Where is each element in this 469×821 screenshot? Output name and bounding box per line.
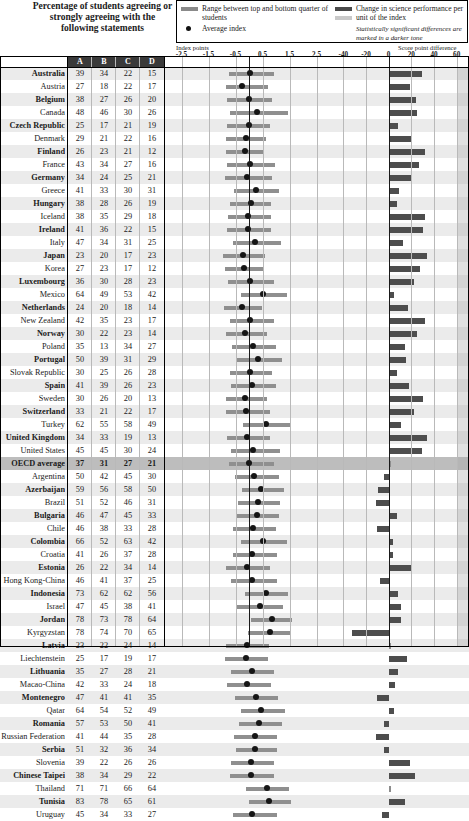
- index-range-cell: [168, 808, 330, 821]
- cell-b: 33: [92, 184, 116, 197]
- table-row[interactable]: Montenegro47414135: [0, 691, 469, 704]
- cell-d: 24: [140, 444, 164, 457]
- table-row[interactable]: Mexico64495342: [0, 288, 469, 301]
- table-row[interactable]: Serbia51323634: [0, 743, 469, 756]
- table-row[interactable]: Chile46383328: [0, 522, 469, 535]
- cell-a: 78: [68, 613, 92, 626]
- table-row[interactable]: Russian Federation41443528: [0, 730, 469, 743]
- table-row[interactable]: Jordan78737864: [0, 613, 469, 626]
- table-row[interactable]: Ireland41362215: [0, 223, 469, 236]
- table-row[interactable]: Chinese Taipei38342922: [0, 769, 469, 782]
- table-row[interactable]: Greece41333031: [0, 184, 469, 197]
- table-row[interactable]: Australia39342215: [0, 67, 469, 80]
- value-cells: 62555849: [68, 418, 164, 431]
- table-row[interactable]: Sweden30262013: [0, 392, 469, 405]
- table-row[interactable]: Czech Republic25172119: [0, 119, 469, 132]
- index-range-cell: [168, 288, 330, 301]
- index-range-cell: [168, 340, 330, 353]
- table-row[interactable]: Norway30222314: [0, 327, 469, 340]
- table-row[interactable]: Latvia23222414: [0, 639, 469, 652]
- table-row[interactable]: Brazil51524631: [0, 496, 469, 509]
- table-row[interactable]: Uruguay45343327: [0, 808, 469, 821]
- table-row[interactable]: Finland26232112: [0, 145, 469, 158]
- table-row[interactable]: Italy47343125: [0, 236, 469, 249]
- score-difference-bar: [389, 435, 428, 441]
- table-row[interactable]: Argentina50424530: [0, 470, 469, 483]
- cell-b: 34: [92, 67, 116, 80]
- table-row[interactable]: France43342716: [0, 158, 469, 171]
- table-row[interactable]: United States45453024: [0, 444, 469, 457]
- table-row[interactable]: Germany34242521: [0, 171, 469, 184]
- table-row[interactable]: Spain41392623: [0, 379, 469, 392]
- table-row[interactable]: Kyrgyzstan78747065: [0, 626, 469, 639]
- cell-c: 18: [116, 301, 140, 314]
- table-row[interactable]: Azerbaijan59565850: [0, 483, 469, 496]
- country-label: Hungary: [0, 197, 65, 210]
- table-row[interactable]: Portugal50393129: [0, 353, 469, 366]
- value-cells: 41362215: [68, 223, 164, 236]
- table-row[interactable]: Bulgaria46474533: [0, 509, 469, 522]
- index-range-cell: [168, 197, 330, 210]
- table-row[interactable]: Estonia26223414: [0, 561, 469, 574]
- table-row[interactable]: Lithuania35272821: [0, 665, 469, 678]
- table-row[interactable]: Slovenia39222626: [0, 756, 469, 769]
- index-range-cell: [168, 600, 330, 613]
- value-cells: 27182217: [68, 80, 164, 93]
- score-difference-cell: [332, 288, 468, 301]
- cell-b: 41: [92, 574, 116, 587]
- table-row[interactable]: Thailand71716664: [0, 782, 469, 795]
- score-difference-cell: [332, 613, 468, 626]
- cell-d: 13: [140, 431, 164, 444]
- table-row[interactable]: Korea27231712: [0, 262, 469, 275]
- value-cells: 41263728: [68, 548, 164, 561]
- table-row[interactable]: Macao-China42332418: [0, 678, 469, 691]
- table-row[interactable]: Iceland38352918: [0, 210, 469, 223]
- cell-c: 21: [116, 119, 140, 132]
- table-row[interactable]: Turkey62555849: [0, 418, 469, 431]
- table-row[interactable]: New Zealand42352317: [0, 314, 469, 327]
- country-label: Spain: [0, 379, 65, 392]
- table-row[interactable]: Switzerland33212217: [0, 405, 469, 418]
- index-range-cell: [168, 366, 330, 379]
- table-row[interactable]: Luxembourg36302823: [0, 275, 469, 288]
- table-row[interactable]: Hong Kong-China46413725: [0, 574, 469, 587]
- table-row[interactable]: Colombia66526342: [0, 535, 469, 548]
- cell-c: 27: [116, 158, 140, 171]
- average-index-dot: [248, 200, 254, 206]
- cell-b: 34: [92, 769, 116, 782]
- country-label: Slovak Republic: [0, 366, 65, 379]
- table-row[interactable]: OECD average37312721: [0, 457, 469, 470]
- value-cells: 46413725: [68, 574, 164, 587]
- cell-c: 45: [116, 470, 140, 483]
- cell-c: 22: [116, 405, 140, 418]
- cell-b: 52: [92, 496, 116, 509]
- table-row[interactable]: Canada48463026: [0, 106, 469, 119]
- score-difference-bar: [389, 656, 407, 662]
- table-row[interactable]: Belgium38272620: [0, 93, 469, 106]
- table-row[interactable]: Austria27182217: [0, 80, 469, 93]
- cell-a: 41: [68, 184, 92, 197]
- table-row[interactable]: Slovak Republic30252628: [0, 366, 469, 379]
- value-cells: 43342716: [68, 158, 164, 171]
- table-row[interactable]: Liechtenstein25171917: [0, 652, 469, 665]
- table-row[interactable]: Israel47453841: [0, 600, 469, 613]
- table-row[interactable]: Romania57535041: [0, 717, 469, 730]
- table-row[interactable]: Netherlands24201814: [0, 301, 469, 314]
- table-row[interactable]: Indonesia73626256: [0, 587, 469, 600]
- score-difference-cell: [332, 639, 468, 652]
- value-cells: 57535041: [68, 717, 164, 730]
- table-row[interactable]: United Kingdom34331913: [0, 431, 469, 444]
- table-row[interactable]: Poland35133427: [0, 340, 469, 353]
- cell-a: 46: [68, 522, 92, 535]
- cell-a: 38: [68, 93, 92, 106]
- table-row[interactable]: Croatia41263728: [0, 548, 469, 561]
- table-row[interactable]: Denmark29212216: [0, 132, 469, 145]
- country-label: Russian Federation: [0, 730, 65, 743]
- country-label: Czech Republic: [0, 119, 65, 132]
- cell-a: 43: [68, 158, 92, 171]
- table-row[interactable]: Hungary38282619: [0, 197, 469, 210]
- table-row[interactable]: Tunisia83786561: [0, 795, 469, 808]
- table-row[interactable]: Qatar64545249: [0, 704, 469, 717]
- table-row[interactable]: Japan23201723: [0, 249, 469, 262]
- cell-d: 49: [140, 704, 164, 717]
